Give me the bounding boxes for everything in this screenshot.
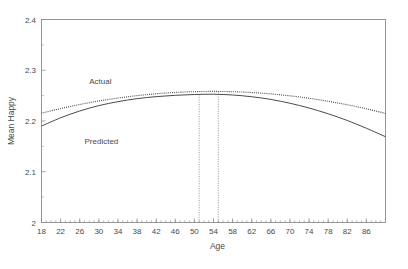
series-label-predicted: Predicted	[85, 137, 119, 146]
y-tick-label: 2.1	[25, 168, 37, 177]
series-curve-predicted	[42, 94, 386, 137]
x-tick-label: 82	[343, 227, 352, 236]
y-tick-label: 2.2	[25, 117, 37, 126]
series-curve-actual	[42, 91, 386, 113]
x-tick-label: 54	[209, 227, 218, 236]
y-axis-title: Mean Happy	[6, 96, 16, 145]
x-tick-label: 70	[285, 227, 294, 236]
y-tick-label: 2.3	[25, 66, 37, 75]
x-tick-label: 38	[133, 227, 142, 236]
x-tick-label: 42	[152, 227, 161, 236]
x-tick-label: 46	[171, 227, 180, 236]
x-tick-label: 66	[266, 227, 275, 236]
series-label-actual: Actual	[89, 77, 111, 86]
y-axis-ticks: 22.12.22.32.4	[25, 16, 46, 228]
x-tick-label: 22	[56, 227, 65, 236]
x-tick-label: 26	[75, 227, 84, 236]
x-tick-label: 86	[362, 227, 371, 236]
x-tick-label: 30	[94, 227, 103, 236]
x-tick-label: 62	[247, 227, 256, 236]
x-tick-label: 50	[190, 227, 199, 236]
x-tick-label: 74	[305, 227, 314, 236]
x-tick-label: 18	[37, 227, 46, 236]
x-tick-label: 34	[113, 227, 122, 236]
x-tick-label: 78	[324, 227, 333, 236]
chart-figure: 18222630343842465054586266707478828622.1…	[0, 0, 408, 269]
x-tick-label: 58	[228, 227, 237, 236]
chart-svg: 18222630343842465054586266707478828622.1…	[0, 0, 408, 269]
y-tick-label: 2.4	[25, 16, 37, 25]
x-axis-title: Age	[210, 241, 225, 251]
y-tick-label: 2	[32, 219, 37, 228]
plot-frame	[42, 20, 386, 223]
